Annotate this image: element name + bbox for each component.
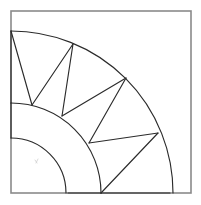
chord-outer3-middle3 (89, 133, 158, 143)
chord-outer2-middle3 (89, 78, 126, 143)
chord-outer3-middle4 (101, 133, 158, 193)
middle-arc (11, 103, 101, 193)
inner-sector-speck (35, 159, 38, 163)
bounding-square-frame (11, 11, 191, 193)
chord-outer1-middle1 (32, 44, 73, 105)
figure-root (0, 0, 201, 205)
chord-outer2-middle2 (62, 78, 126, 116)
geometry-figure-svg (0, 0, 201, 205)
inner-arc (11, 138, 66, 193)
outer-arc (11, 31, 173, 193)
chord-outer0-middle1 (11, 31, 32, 105)
chord-outer1-middle2 (62, 44, 73, 116)
